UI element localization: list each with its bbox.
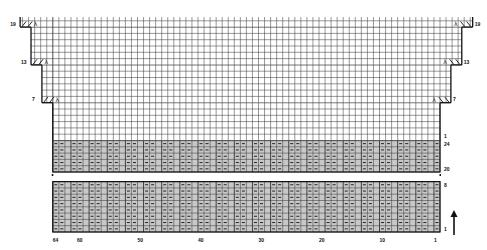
row-label-body-1: 1 [444, 133, 447, 139]
column-label-64: 64 [53, 237, 59, 243]
row-label-right-7: 7 [453, 96, 456, 102]
svg-text:λ: λ [34, 20, 38, 27]
row-label-rib-20: 20 [444, 166, 450, 172]
row-label-right-13: 13 [464, 59, 470, 65]
chart-grid: λλλλλλ [0, 0, 487, 250]
row-label-right-19: 19 [475, 21, 481, 27]
row-label-rib-24: 24 [444, 141, 450, 147]
svg-text:λ: λ [443, 58, 447, 65]
column-label-20: 20 [319, 237, 325, 243]
row-label-left-13: 13 [21, 59, 27, 65]
column-label-1: 1 [434, 237, 437, 243]
column-label-60: 60 [77, 237, 83, 243]
knitting-chart: λλλλλλ [0, 0, 487, 250]
row-label-left-19: 19 [10, 21, 16, 27]
column-label-30: 30 [259, 237, 265, 243]
svg-text:λ: λ [56, 96, 60, 103]
svg-text:λ: λ [45, 58, 49, 65]
column-label-40: 40 [198, 237, 204, 243]
row-label-left-7: 7 [32, 96, 35, 102]
svg-text:λ: λ [432, 96, 436, 103]
svg-text:λ: λ [454, 20, 458, 27]
column-label-50: 50 [138, 237, 144, 243]
row-label-rib-8: 8 [444, 182, 447, 188]
row-label-rib-1: 1 [444, 226, 447, 232]
column-label-10: 10 [380, 237, 386, 243]
up-arrow-icon [449, 210, 459, 236]
